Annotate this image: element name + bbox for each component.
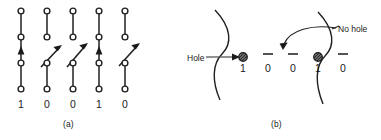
figure-container: 1 0 0 1 0 1 0 0 1 0 Hole No hole (a) (b) — [0, 0, 381, 140]
bit-label-b-0: 1 — [237, 62, 249, 74]
core-column-0 — [18, 8, 25, 92]
bit-label-b-4: 0 — [337, 62, 349, 74]
bit-label-b-1: 0 — [262, 62, 274, 74]
panel-a-group — [18, 8, 140, 92]
hole-annotation-label: Hole — [187, 53, 204, 63]
bit-label-a-4: 0 — [119, 98, 131, 110]
panel-b-group — [206, 10, 348, 104]
core-column-4 — [119, 8, 140, 92]
bit-label-a-0: 1 — [15, 98, 27, 110]
core-column-1 — [41, 8, 62, 92]
left-s-curve — [214, 10, 229, 100]
hole-dot-marker-3 — [314, 53, 323, 62]
bit-label-b-3: 1 — [312, 62, 324, 74]
hole-leader-arrow — [206, 53, 240, 60]
core-column-2 — [67, 8, 88, 92]
bit-label-a-1: 0 — [41, 98, 53, 110]
bit-label-a-2: 0 — [67, 98, 79, 110]
bit-label-b-2: 0 — [287, 62, 299, 74]
vertical-up-arrowhead — [18, 46, 25, 55]
bit-label-a-3: 1 — [93, 98, 105, 110]
panel-b-caption: (b) — [271, 119, 282, 129]
hole-dot-marker-0 — [239, 53, 248, 62]
no-hole-annotation-label: No hole — [338, 24, 367, 34]
no-hole-leader-arrow — [280, 27, 336, 50]
panel-a-caption: (a) — [63, 119, 74, 129]
core-column-3 — [96, 8, 103, 92]
vertical-up-arrowhead — [96, 46, 103, 55]
